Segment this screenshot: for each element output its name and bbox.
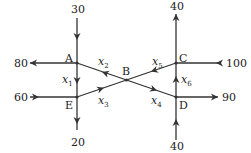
node-D-dot: [174, 95, 177, 98]
flow-label-E-bottom: 20: [71, 137, 85, 148]
flow-label-A-left: 80: [14, 58, 28, 69]
arrow-right-icon: [149, 85, 158, 94]
flow-label-C-top: 40: [170, 1, 184, 12]
arrow-right-icon: [96, 84, 105, 93]
var-label-x2: x2: [98, 56, 109, 70]
var-label-x6: x6: [181, 74, 192, 88]
var-label-x3: x3: [98, 95, 109, 109]
var-label-x4: x4: [151, 95, 162, 109]
var-label-x1: x1: [62, 74, 73, 88]
node-B-dot: [125, 78, 128, 81]
flow-label-D-bottom: 40: [170, 141, 184, 152]
flow-label-A-top: 30: [71, 4, 85, 15]
flow-label-E-left: 60: [14, 92, 28, 103]
node-label-C: C: [179, 53, 187, 64]
node-label-E: E: [65, 100, 73, 111]
node-label-D: D: [179, 100, 188, 111]
var-label-x5: x5: [152, 56, 163, 70]
node-A-dot: [75, 61, 78, 64]
flow-label-C-right: 100: [226, 58, 247, 69]
node-C-dot: [174, 61, 177, 64]
arrow-left-icon: [216, 60, 223, 67]
flow-label-D-right: 90: [222, 92, 236, 103]
node-label-A: A: [65, 53, 73, 64]
node-label-B: B: [122, 66, 130, 77]
node-E-dot: [75, 95, 78, 98]
